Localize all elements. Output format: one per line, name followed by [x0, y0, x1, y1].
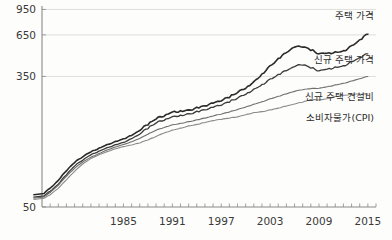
y-tick-label: 50 [23, 201, 36, 213]
series-label: 주택 가격 [335, 10, 374, 21]
y-tick-label: 650 [16, 29, 36, 41]
series-line [34, 54, 368, 197]
chart-container: 95065035050 198519911997200320092015 주택 … [0, 0, 392, 240]
series-line [34, 94, 368, 200]
x-tick-label: 2009 [306, 215, 333, 227]
x-axis [42, 204, 376, 208]
x-tick-label: 1997 [208, 215, 235, 227]
y-tick-label: 950 [16, 3, 36, 15]
x-tick-label: 1991 [159, 215, 186, 227]
series-label: 신규 주택 가격 [314, 54, 374, 65]
x-tick-label: 2003 [257, 215, 284, 227]
line-chart: 95065035050 198519911997200320092015 주택 … [0, 0, 392, 240]
x-tick-label: 2015 [354, 215, 381, 227]
x-tick-label: 1985 [110, 215, 137, 227]
series-label: 신규 주택 건설비 [305, 91, 374, 102]
series-label: 소비자물가(CPI) [306, 112, 374, 123]
x-tick-labels: 198519911997200320092015 [110, 215, 381, 227]
y-tick-label: 350 [16, 70, 36, 82]
gridlines [42, 9, 376, 76]
